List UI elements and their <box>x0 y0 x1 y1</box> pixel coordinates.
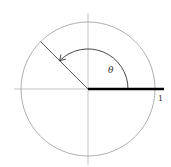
radius-value-label: 1 <box>158 94 163 103</box>
unit-circle-diagram: θ 1 <box>0 0 171 167</box>
theta-arc <box>60 49 128 89</box>
terminal-radius <box>41 42 88 89</box>
theta-label: θ <box>108 65 114 75</box>
